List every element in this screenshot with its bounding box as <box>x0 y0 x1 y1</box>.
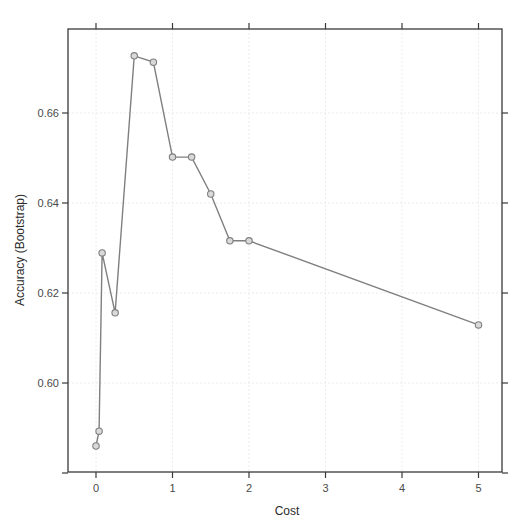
data-point-marker <box>169 154 175 160</box>
data-point-marker <box>246 238 252 244</box>
x-tick-label: 5 <box>475 482 481 494</box>
y-tick-label: 0.60 <box>38 377 59 389</box>
data-point-marker <box>227 238 233 244</box>
y-tick-label: 0.66 <box>38 107 59 119</box>
data-point-marker <box>150 59 156 65</box>
x-tick-label: 1 <box>169 482 175 494</box>
x-axis-title: Cost <box>275 504 300 518</box>
y-axis-title: Accuracy (Bootstrap) <box>13 194 27 306</box>
x-tick-label: 3 <box>322 482 328 494</box>
grid-lines <box>68 29 502 472</box>
data-point-marker <box>112 310 118 316</box>
data-series <box>93 53 482 450</box>
x-tick-label: 2 <box>246 482 252 494</box>
series-line <box>96 56 479 446</box>
accuracy-vs-cost-chart: 0123450.600.620.640.66 Cost Accuracy (Bo… <box>0 0 523 531</box>
axis-tick-labels: 0123450.600.620.640.66 <box>38 107 482 494</box>
data-point-marker <box>131 53 137 59</box>
data-point-marker <box>475 322 481 328</box>
data-point-marker <box>99 250 105 256</box>
plot-frame <box>68 29 502 472</box>
data-point-marker <box>93 443 99 449</box>
y-tick-label: 0.62 <box>38 287 59 299</box>
axis-ticks <box>62 23 508 478</box>
data-point-marker <box>96 428 102 434</box>
x-tick-label: 4 <box>399 482 405 494</box>
y-tick-label: 0.64 <box>38 197 59 209</box>
x-tick-label: 0 <box>93 482 99 494</box>
data-point-marker <box>208 191 214 197</box>
data-point-marker <box>188 154 194 160</box>
